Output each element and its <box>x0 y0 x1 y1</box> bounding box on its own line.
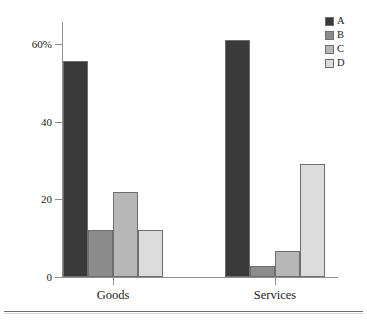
legend-swatch-icon <box>325 31 334 40</box>
legend-item-b: B <box>325 29 365 42</box>
y-tick-mark <box>55 44 63 45</box>
x-tick-mark <box>113 278 114 285</box>
bar-services-a <box>225 40 250 277</box>
bottom-divider <box>4 311 363 312</box>
legend-item-a: A <box>325 15 365 28</box>
y-tick-mark <box>55 199 63 200</box>
x-tick-label-services: Services <box>215 288 335 303</box>
y-tick-label: 40 <box>12 117 52 128</box>
legend-swatch-icon <box>325 59 334 68</box>
bar-services-b <box>250 266 275 277</box>
y-tick-mark <box>55 122 63 123</box>
legend-item-d: D <box>325 57 365 70</box>
y-tick-label: 60% <box>12 39 52 50</box>
x-tick-label-goods: Goods <box>53 288 173 303</box>
bar-goods-a <box>63 61 88 277</box>
y-tick-mark <box>55 277 63 278</box>
bar-chart-figure: 60%40200 GoodsServices ABCD <box>0 0 367 325</box>
x-tick-mark <box>275 278 276 285</box>
legend-label: D <box>337 58 345 69</box>
plot-area <box>63 22 325 277</box>
legend-item-c: C <box>325 43 365 56</box>
legend-swatch-icon <box>325 17 334 26</box>
chart-legend: ABCD <box>325 15 365 71</box>
bar-services-d <box>300 164 325 277</box>
bar-goods-b <box>88 230 113 277</box>
bar-goods-d <box>138 230 163 277</box>
y-tick-label: 0 <box>12 272 52 283</box>
bottom-divider-shadow <box>4 313 363 314</box>
legend-swatch-icon <box>325 45 334 54</box>
x-axis-line <box>62 277 338 278</box>
legend-label: B <box>337 30 344 41</box>
bar-services-c <box>275 251 300 277</box>
legend-label: C <box>337 44 344 55</box>
bar-goods-c <box>113 192 138 277</box>
legend-label: A <box>337 16 345 27</box>
y-tick-label: 20 <box>12 194 52 205</box>
